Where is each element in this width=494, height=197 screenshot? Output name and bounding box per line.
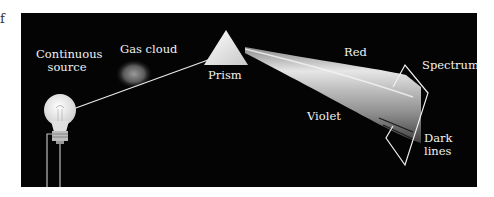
figure-label-fragment: f — [0, 11, 5, 26]
light-bulb-icon — [44, 94, 76, 187]
prism-label: Prism — [208, 69, 242, 82]
dark-lines-label: Dark lines — [424, 132, 453, 158]
red-label: Red — [344, 46, 367, 59]
prism-icon — [204, 30, 248, 65]
dispersed-beam-icon — [245, 47, 421, 143]
continuous-source-label-line2: source — [48, 60, 87, 74]
dark-lines-label-line2: lines — [424, 144, 451, 158]
dark-lines-label-line1: Dark — [424, 131, 453, 145]
diagram-graphics — [21, 13, 477, 187]
spectrum-label: Spectrum — [422, 59, 477, 72]
violet-label: Violet — [307, 110, 341, 123]
absorption-spectrum-diagram: Continuous source Gas cloud Prism Red Vi… — [21, 13, 477, 187]
gas-cloud-label: Gas cloud — [120, 43, 177, 56]
gas-cloud-icon — [115, 59, 153, 89]
continuous-source-label: Continuous source — [36, 48, 98, 74]
continuous-source-label-line1: Continuous — [36, 47, 102, 61]
